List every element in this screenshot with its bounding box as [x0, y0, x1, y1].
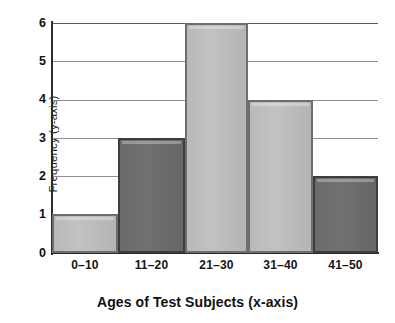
x-tick-label-0: 0–10 [52, 258, 118, 272]
bar-highlight [122, 141, 181, 144]
bar-highlight [189, 26, 244, 29]
y-tick-label-1: 1 [32, 208, 46, 221]
bar-31-40[interactable] [248, 100, 313, 253]
x-tick-label-1: 11–20 [118, 258, 185, 272]
y-tick-label-5: 5 [32, 55, 46, 68]
bar-0-10[interactable] [52, 214, 118, 253]
bar-41-50[interactable] [313, 176, 378, 253]
histogram-figure: Frequency (y-axis) 6 5 4 3 2 1 0 0–10 11… [0, 0, 395, 323]
y-tick-label-6: 6 [32, 17, 46, 30]
bar-11-20[interactable] [118, 138, 185, 253]
bar-21-30[interactable] [185, 23, 248, 253]
x-tick-label-4: 41–50 [313, 258, 378, 272]
bar-highlight [252, 103, 309, 106]
x-axis-title: Ages of Test Subjects (x-axis) [0, 294, 395, 310]
x-tick-label-2: 21–30 [185, 258, 248, 272]
bar-highlight [56, 217, 114, 220]
y-tick-label-4: 4 [32, 93, 46, 106]
x-tick-label-3: 31–40 [248, 258, 313, 272]
bar-highlight [317, 179, 374, 182]
x-axis-tick-labels: 0–10 11–20 21–30 31–40 41–50 [52, 258, 378, 278]
y-tick-label-2: 2 [32, 170, 46, 183]
bar-series [52, 23, 378, 253]
y-tick-label-3: 3 [32, 132, 46, 145]
y-tick-label-0: 0 [32, 247, 46, 260]
y-axis-tick-labels: 6 5 4 3 2 1 0 [30, 23, 46, 253]
